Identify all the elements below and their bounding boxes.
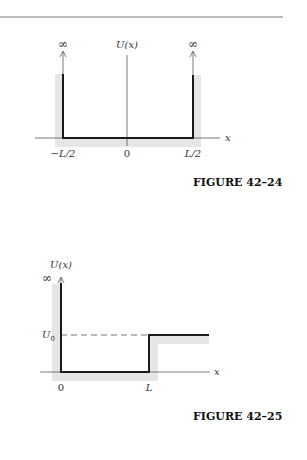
tick-label-zero: 0 <box>124 148 130 159</box>
right-wall-shade <box>193 75 201 147</box>
potential-curve <box>63 74 193 138</box>
x-axis-label: x <box>214 366 220 377</box>
left-wall-shade <box>55 74 63 147</box>
wall-shade <box>52 284 61 381</box>
tick-label-neg-half-l: −L/2 <box>51 148 76 159</box>
x-axis-label: x <box>225 132 231 143</box>
infinity-label: ∞ <box>42 271 52 285</box>
tick-label-half-l: L/2 <box>184 148 201 159</box>
floor-shade <box>52 372 158 381</box>
step-top-shade <box>149 335 209 344</box>
figure-42-24: ∞ ∞ U(x) x −L/2 0 L/2 FIGURE 42–24 <box>35 37 283 189</box>
tick-label-zero: 0 <box>58 382 64 393</box>
right-infinity-label: ∞ <box>188 37 198 51</box>
potential-curve <box>61 283 209 372</box>
tick-label-l: L <box>145 382 153 393</box>
figure-page: ∞ ∞ U(x) x −L/2 0 L/2 FIGURE 42–24 U(x) … <box>0 0 307 460</box>
floor-shade <box>55 138 201 147</box>
y-axis-label: U(x) <box>50 259 72 270</box>
figure-caption: FIGURE 42–25 <box>193 410 282 423</box>
figure-42-25: U(x) ∞ U0 x 0 L FIGURE 42–25 <box>40 259 282 423</box>
figure-caption: FIGURE 42–24 <box>193 176 283 189</box>
left-infinity-label: ∞ <box>58 37 68 51</box>
y-axis-label: U(x) <box>116 39 138 50</box>
